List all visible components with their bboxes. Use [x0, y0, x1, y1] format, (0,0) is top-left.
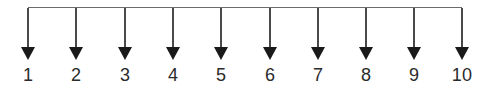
arrow-2: [69, 8, 83, 61]
arrowhead-icon-3: [118, 47, 132, 60]
arrowhead-icon-6: [263, 47, 277, 60]
arrowhead-icon-1: [21, 47, 35, 60]
arrow-7: [311, 8, 325, 61]
arrow-9: [407, 8, 421, 61]
arrow-4: [166, 8, 180, 61]
arrowhead-icon-2: [69, 47, 83, 60]
arrow-1: [21, 8, 35, 61]
tick-label-6: 6: [265, 66, 275, 84]
arrow-8: [359, 8, 373, 61]
tick-label-9: 9: [409, 66, 419, 84]
fanout-diagram: 12345678910: [0, 0, 497, 94]
tick-label-5: 5: [216, 66, 226, 84]
arrowhead-icon-7: [311, 47, 325, 60]
arrowhead-icon-8: [359, 47, 373, 60]
arrow-10: [455, 8, 469, 61]
arrowhead-icon-9: [407, 47, 421, 60]
tick-label-3: 3: [120, 66, 130, 84]
tick-label-2: 2: [71, 66, 81, 84]
tick-label-4: 4: [168, 66, 178, 84]
arrow-6: [263, 8, 277, 61]
tick-label-1: 1: [23, 66, 33, 84]
arrowhead-icon-5: [214, 47, 228, 60]
arrow-layer: [21, 8, 469, 61]
arrowhead-icon-4: [166, 47, 180, 60]
tick-label-10: 10: [452, 66, 472, 84]
tick-label-7: 7: [313, 66, 323, 84]
tick-label-8: 8: [361, 66, 371, 84]
arrow-3: [118, 8, 132, 61]
arrow-5: [214, 8, 228, 61]
arrowhead-icon-10: [455, 47, 469, 60]
